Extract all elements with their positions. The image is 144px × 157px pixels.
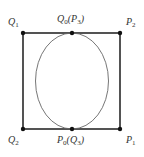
label-q2: Q2 [8, 135, 19, 147]
label-q1: Q1 [8, 17, 19, 29]
label-q1-sub: 1 [15, 21, 19, 29]
label-paren-close: ) [81, 13, 84, 24]
label-p0-q3: P0(Q3) [57, 135, 84, 147]
label-p2-sub: 2 [132, 21, 136, 29]
point-p0-q3 [70, 127, 74, 131]
point-p2 [118, 31, 122, 35]
label-p2: P2 [126, 17, 136, 29]
label-paren-close: ) [81, 134, 84, 145]
label-q2-sub: 2 [15, 139, 19, 147]
label-p1: P1 [126, 135, 136, 147]
ellipse-curve [36, 33, 109, 129]
point-q0-p3 [70, 31, 74, 35]
label-q0-p3: Q0(P3) [57, 14, 84, 26]
label-p1-sub: 1 [132, 139, 136, 147]
control-square [23, 33, 120, 129]
point-p1 [118, 127, 122, 131]
point-q1 [21, 31, 25, 35]
point-q2 [21, 127, 25, 131]
